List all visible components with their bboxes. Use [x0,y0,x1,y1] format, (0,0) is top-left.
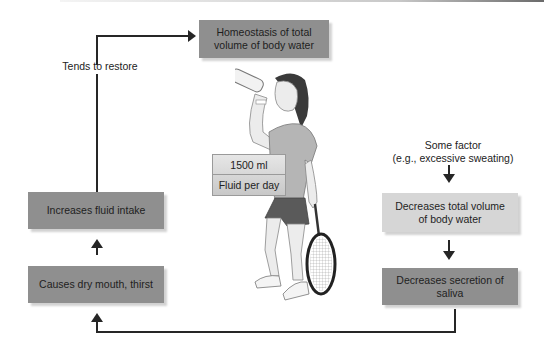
decreases-body-water-box: Decreases total volume of body water [382,193,518,232]
fluid-intake-badge: 1500 ml Fluid per day [212,154,286,196]
feedback-line-horizontal-top [96,35,188,37]
fluid-amount: 1500 ml [213,155,285,175]
some-factor-text: Some factor (e.g., excessive sweating) [393,139,514,164]
fluid-caption: Fluid per day [213,175,285,195]
decreases-saliva-box: Decreases secretion of saliva [382,268,518,305]
homeostasis-label: Homeostasis of total volume of body wate… [210,26,318,52]
arrow-to-homeostasis-icon [188,30,196,42]
dry-mouth-thirst-box: Causes dry mouth, thirst [28,266,164,303]
arrow-up-shaft [96,247,98,255]
arrow-down-icon-2 [443,251,455,260]
bottom-loop-horizontal [96,331,456,333]
increases-fluid-intake-box: Increases fluid intake [28,192,164,229]
decreases-body-water-label: Decreases total volume of body water [390,200,510,226]
dry-mouth-thirst-label: Causes dry mouth, thirst [39,278,153,291]
top-border [60,0,544,2]
arrow-down-icon [443,174,455,183]
tends-to-restore-label: Tends to restore [50,60,150,73]
some-factor-label: Some factor (e.g., excessive sweating) [383,139,523,165]
homeostasis-box: Homeostasis of total volume of body wate… [199,20,329,58]
bottom-loop-vertical-right [454,309,456,333]
decreases-saliva-label: Decreases secretion of saliva [395,274,505,300]
feedback-line-vertical-bottom [96,74,98,192]
increases-fluid-intake-label: Increases fluid intake [47,204,146,217]
